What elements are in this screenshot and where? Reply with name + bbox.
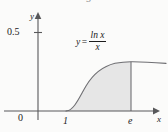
equation-denominator: x — [95, 42, 99, 52]
origin-label: 0 — [18, 113, 23, 123]
equation-fraction: ln x x — [89, 31, 106, 53]
figure-container: an the shaded region. y x 0.5 0 1 e y = … — [0, 0, 168, 132]
curve-equation-annotation: y = ln x x — [76, 31, 106, 53]
plot-area — [0, 0, 168, 132]
equation-numerator: ln x — [90, 31, 106, 41]
y-tick-label-0-5: 0.5 — [7, 27, 20, 37]
x-tick-label-1: 1 — [63, 116, 68, 126]
x-tick-label-e: e — [128, 116, 132, 126]
y-axis-label: y — [30, 12, 34, 21]
y-axis-arrow-icon — [35, 12, 42, 19]
equation-relation: = — [82, 37, 87, 47]
equation-lhs: y — [76, 37, 80, 47]
x-axis-label: x — [157, 115, 161, 124]
